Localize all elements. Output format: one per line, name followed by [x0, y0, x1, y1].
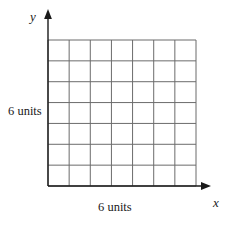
x-axis-label: x	[213, 196, 219, 209]
coordinate-grid-diagram: y x 6 units 6 units	[0, 0, 234, 226]
grid-background	[48, 40, 196, 186]
vertical-units-label: 6 units	[8, 105, 42, 118]
arrow-right-icon	[201, 182, 211, 190]
horizontal-units-label: 6 units	[98, 201, 132, 214]
y-axis-label: y	[30, 10, 36, 23]
arrow-up-icon	[44, 9, 52, 19]
